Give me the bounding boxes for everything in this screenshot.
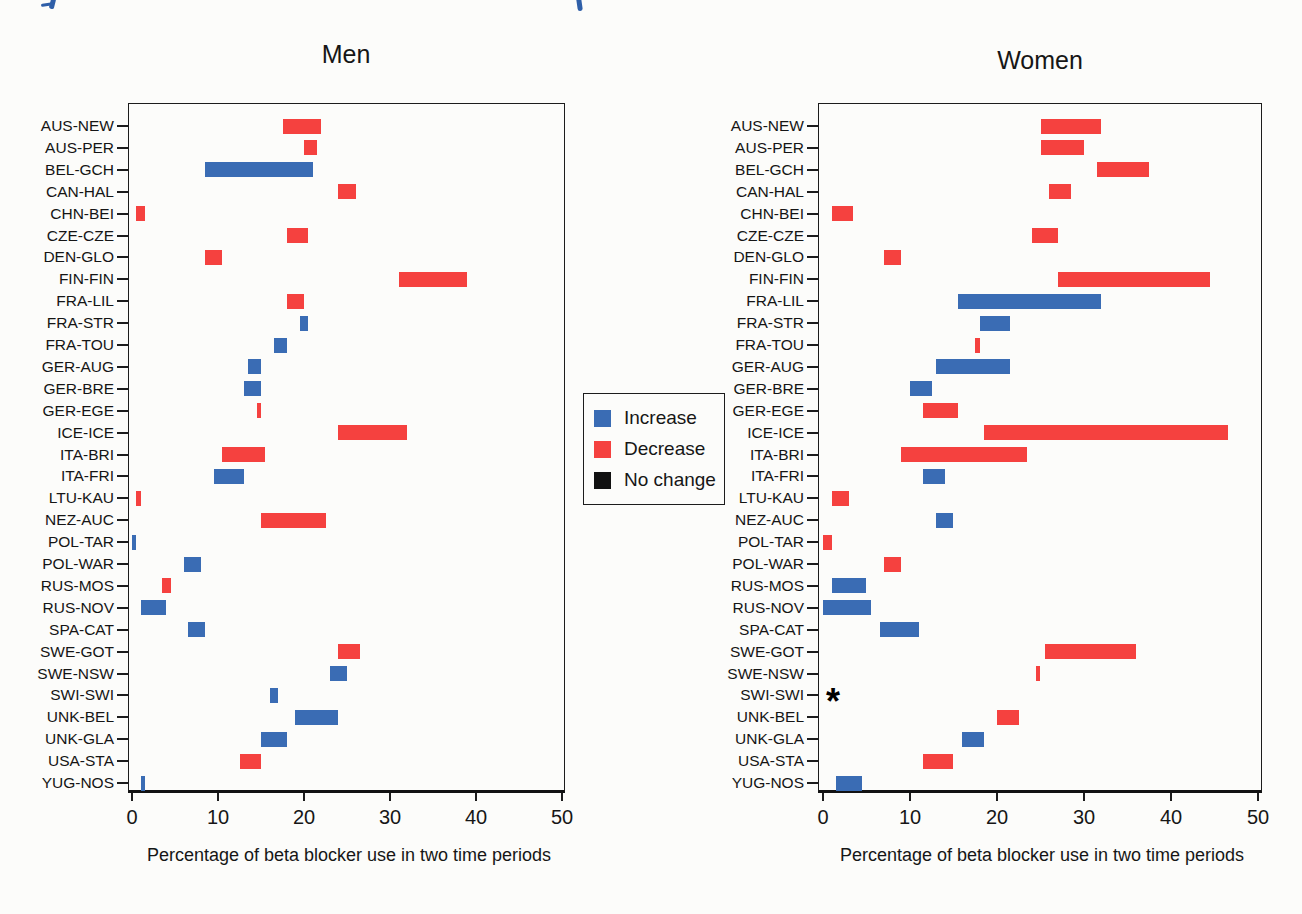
y-axis-tick <box>807 366 818 368</box>
increase-swatch <box>594 410 611 427</box>
range-bar-cze-cze <box>1032 228 1058 243</box>
range-bar-pol-war <box>884 557 901 572</box>
x-axis-tick-label: 50 <box>1236 806 1280 829</box>
category-label-swe-nsw: SWE-NSW <box>708 666 804 682</box>
legend-item-no-change: No change <box>594 469 724 491</box>
y-axis-tick <box>807 300 818 302</box>
y-axis-tick <box>807 519 818 521</box>
y-axis-tick <box>807 125 818 127</box>
y-axis-tick <box>807 563 818 565</box>
x-axis-tick-label: 10 <box>888 806 932 829</box>
y-axis-tick <box>807 585 818 587</box>
category-label-fra-tou: FRA-TOU <box>708 337 804 353</box>
y-axis-tick <box>807 497 818 499</box>
range-bar-unk-bel <box>997 710 1019 725</box>
range-bar-ger-aug <box>936 359 1010 374</box>
no-change-swatch <box>594 472 611 489</box>
x-axis-tick <box>1170 793 1172 801</box>
y-axis-tick <box>807 782 818 784</box>
x-axis-tick <box>909 793 911 801</box>
range-bar-fra-lil <box>958 294 1102 309</box>
range-bar-aus-new <box>1041 119 1102 134</box>
category-label-can-hal: CAN-HAL <box>708 184 804 200</box>
category-label-rus-mos: RUS-MOS <box>708 578 804 594</box>
legend-label: Increase <box>624 407 697 429</box>
y-axis-tick <box>807 716 818 718</box>
category-label-usa-sta: USA-STA <box>708 753 804 769</box>
y-axis-tick <box>807 344 818 346</box>
range-bar-den-glo <box>884 250 901 265</box>
range-bar-ice-ice <box>984 425 1228 440</box>
range-bar-aus-per <box>1041 140 1085 155</box>
y-axis-tick <box>807 278 818 280</box>
y-axis-tick <box>807 169 818 171</box>
y-axis-tick <box>807 191 818 193</box>
range-bar-can-hal <box>1049 184 1071 199</box>
range-bar-ger-ege <box>923 403 958 418</box>
category-label-den-glo: DEN-GLO <box>708 249 804 265</box>
category-label-spa-cat: SPA-CAT <box>708 622 804 638</box>
range-bar-unk-gla <box>962 732 984 747</box>
range-bar-chn-bei <box>832 206 854 221</box>
y-axis-tick <box>807 651 818 653</box>
y-axis-tick <box>807 694 818 696</box>
no-data-asterisk: * <box>826 684 840 720</box>
legend-label: No change <box>624 469 716 491</box>
category-label-swe-got: SWE-GOT <box>708 644 804 660</box>
category-label-aus-per: AUS-PER <box>708 140 804 156</box>
category-label-chn-bei: CHN-BEI <box>708 206 804 222</box>
range-bar-pol-tar <box>823 535 832 550</box>
category-label-yug-nos: YUG-NOS <box>708 775 804 791</box>
category-label-bel-gch: BEL-GCH <box>708 162 804 178</box>
range-bar-spa-cat <box>880 622 919 637</box>
range-bar-swe-got <box>1045 644 1136 659</box>
x-axis-tick <box>1083 793 1085 801</box>
y-axis-tick <box>807 541 818 543</box>
category-label-swi-swi: SWI-SWI <box>708 687 804 703</box>
x-axis-label-men: Percentage of beta blocker use in two ti… <box>129 845 569 866</box>
x-axis-tick-label: 20 <box>975 806 1019 829</box>
y-axis-tick <box>807 410 818 412</box>
range-bar-ita-bri <box>901 447 1027 462</box>
y-axis-tick <box>807 235 818 237</box>
y-axis-tick <box>807 607 818 609</box>
legend-item-decrease: Decrease <box>594 438 724 460</box>
range-bar-rus-nov <box>823 600 871 615</box>
y-axis-tick <box>807 213 818 215</box>
y-axis-tick <box>807 432 818 434</box>
y-axis-tick <box>807 673 818 675</box>
range-bar-nez-auc <box>936 513 953 528</box>
x-axis-tick <box>822 793 824 801</box>
figure-canvas: Men Women 01020304050AUS-NEWAUS-PERBEL-G… <box>0 0 1302 914</box>
y-axis-tick <box>807 760 818 762</box>
category-label-nez-auc: NEZ-AUC <box>708 512 804 528</box>
range-bar-fin-fin <box>1058 272 1210 287</box>
range-bar-fra-str <box>980 316 1010 331</box>
x-axis-tick <box>996 793 998 801</box>
y-axis-tick <box>807 388 818 390</box>
category-label-unk-bel: UNK-BEL <box>708 709 804 725</box>
range-bar-fra-tou <box>975 338 979 353</box>
plot-frame <box>818 103 1262 793</box>
category-label-fra-str: FRA-STR <box>708 315 804 331</box>
category-label-unk-gla: UNK-GLA <box>708 731 804 747</box>
x-axis-label-women: Percentage of beta blocker use in two ti… <box>822 845 1262 866</box>
range-bar-ltu-kau <box>832 491 849 506</box>
y-axis-tick <box>807 256 818 258</box>
x-axis-tick-label: 30 <box>1062 806 1106 829</box>
category-label-fin-fin: FIN-FIN <box>708 271 804 287</box>
x-axis-tick-label: 0 <box>801 806 845 829</box>
range-bar-yug-nos <box>836 776 862 791</box>
range-bar-ger-bre <box>910 381 932 396</box>
legend-item-increase: Increase <box>594 407 724 429</box>
x-axis-tick <box>1257 793 1259 801</box>
category-label-pol-war: POL-WAR <box>708 556 804 572</box>
category-label-pol-tar: POL-TAR <box>708 534 804 550</box>
range-bar-bel-gch <box>1097 162 1149 177</box>
category-label-ger-aug: GER-AUG <box>708 359 804 375</box>
y-axis-tick <box>807 475 818 477</box>
x-axis-tick-label: 40 <box>1149 806 1193 829</box>
range-bar-ita-fri <box>923 469 945 484</box>
category-label-aus-new: AUS-NEW <box>708 118 804 134</box>
y-axis-tick <box>807 738 818 740</box>
